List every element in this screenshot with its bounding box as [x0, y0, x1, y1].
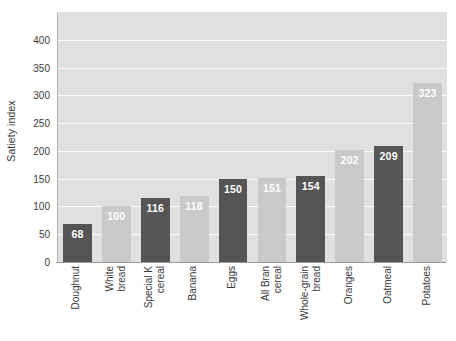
bar-value-label: 118 — [180, 200, 209, 212]
y-axis-title-text: Satiety index — [5, 100, 17, 161]
y-axis-tick-label: 150 — [33, 173, 50, 184]
bar-value-label: 150 — [219, 183, 248, 195]
bar[interactable]: 151 — [258, 178, 287, 262]
bar-value-label: 116 — [141, 202, 170, 214]
x-axis-category-label-line: bread — [310, 266, 322, 320]
x-axis-category-label-line: Banana — [187, 266, 198, 300]
x-axis-category-label-rotated: Oranges — [343, 266, 355, 304]
x-axis-category-label-line: bread — [115, 266, 127, 292]
bar[interactable]: 154 — [296, 176, 325, 262]
bar-value-label: 202 — [335, 154, 364, 166]
x-axis-category-label-line: Doughnut — [71, 266, 82, 309]
x-axis-category-label: Whitebread — [96, 266, 135, 341]
bar-value-label: 151 — [258, 182, 287, 194]
x-axis-category-label: All Brancereal — [252, 266, 291, 341]
y-axis-tick-label: 200 — [33, 145, 50, 156]
x-axis-category-label: Banana — [174, 266, 213, 341]
y-axis-tick-label: 0 — [44, 257, 50, 268]
y-axis-tick-label: 100 — [33, 201, 50, 212]
x-axis-category-label-line: cereal — [271, 266, 283, 301]
x-axis-line — [56, 262, 446, 263]
bars-layer: 68100116118150151154202209323 — [58, 12, 447, 262]
x-axis-category-label: Potatoes — [407, 266, 446, 341]
bar-value-label: 100 — [102, 210, 131, 222]
y-axis-title: Satiety index — [0, 0, 22, 262]
y-axis-tick-label: 400 — [33, 34, 50, 45]
x-axis-category-label-rotated: Banana — [187, 266, 199, 300]
bar[interactable]: 118 — [180, 196, 209, 262]
y-axis-tick-label: 250 — [33, 118, 50, 129]
satiety-index-bar-chart: Satiety index 050100150200250300350400 6… — [0, 0, 456, 341]
x-axis-category-label: Whole-grainbread — [290, 266, 329, 341]
x-axis-category-label-rotated: Whole-grainbread — [298, 266, 321, 320]
bar[interactable]: 116 — [141, 198, 170, 262]
y-axis-tick-labels: 050100150200250300350400 — [22, 12, 54, 262]
x-axis-category-label-rotated: Eggs — [226, 266, 238, 289]
bar-value-label: 154 — [296, 180, 325, 192]
y-axis-tick-label: 300 — [33, 90, 50, 101]
x-axis-category-label: Doughnut — [57, 266, 96, 341]
bar-value-label: 209 — [374, 150, 403, 162]
x-axis-category-label-rotated: Doughnut — [71, 266, 83, 309]
x-axis-category-label: Oranges — [329, 266, 368, 341]
x-axis-category-label-rotated: Oatmeal — [382, 266, 394, 304]
y-axis-tick-label: 50 — [39, 229, 50, 240]
x-axis-category-label-rotated: Whitebread — [104, 266, 127, 292]
bar[interactable]: 100 — [102, 206, 131, 262]
x-axis-category-label: Oatmeal — [368, 266, 407, 341]
bar[interactable]: 68 — [63, 224, 92, 262]
x-axis-category-label-line: Eggs — [226, 266, 237, 289]
x-axis-category-label: Special Kcereal — [135, 266, 174, 341]
x-axis-category-label-line: Special K — [143, 266, 154, 308]
x-axis-category-label-line: All Bran — [259, 266, 270, 301]
x-axis-category-label-rotated: All Brancereal — [259, 266, 282, 301]
bar[interactable]: 150 — [219, 179, 248, 262]
y-axis-tick-label: 350 — [33, 62, 50, 73]
bar-value-label: 68 — [63, 228, 92, 240]
x-axis-category-label-rotated: Special Kcereal — [143, 266, 166, 308]
x-axis-category-label-line: Potatoes — [421, 266, 432, 305]
x-axis-category-label: Eggs — [213, 266, 252, 341]
bar[interactable]: 209 — [374, 146, 403, 262]
x-axis-category-label-line: White — [104, 266, 115, 292]
x-axis-category-label-line: Oranges — [343, 266, 354, 304]
x-axis-category-label-line: cereal — [154, 266, 166, 308]
bar-value-label: 323 — [413, 87, 442, 99]
x-axis-category-label-line: Oatmeal — [382, 266, 393, 304]
x-axis-category-label-line: Whole-grain — [298, 266, 309, 320]
x-axis-category-label-rotated: Potatoes — [421, 266, 433, 305]
bar[interactable]: 202 — [335, 150, 364, 262]
plot-area: 68100116118150151154202209323 — [57, 12, 447, 262]
x-axis-category-labels: DoughnutWhitebreadSpecial KcerealBananaE… — [57, 266, 446, 341]
bar[interactable]: 323 — [413, 83, 442, 262]
